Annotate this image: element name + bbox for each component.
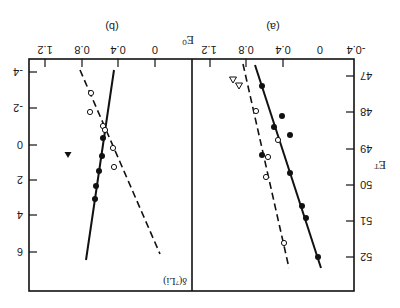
tick-label: 47: [360, 70, 372, 82]
tick-label: 2: [17, 174, 23, 186]
panel-a-label: (a): [266, 21, 279, 33]
panel-b-y-ticks: [29, 72, 37, 252]
panel-b: 0 0.4 0.8 1.2 -4 -2 0 2 4 6 δ(⁷Li) (b): [13, 21, 187, 287]
panel-b-filled-triangle-marker: [65, 152, 72, 158]
panel-a-x-ticks: [210, 59, 283, 67]
tick-label: 0.8: [238, 44, 253, 56]
tick-label: 51: [360, 215, 372, 227]
tick-label: 48: [360, 106, 372, 118]
panel-a-y-axis-title: Eᵀ: [374, 158, 386, 172]
tick-label: 0.8: [74, 44, 89, 56]
panel-b-x-ticks: [45, 59, 155, 67]
panel-b-x-tick-labels: 0 0.4 0.8 1.2: [37, 44, 158, 56]
panel-b-label: (b): [105, 21, 118, 33]
tick-label: 1.2: [37, 44, 52, 56]
panel-b-y-tick-labels: -4 -2 0 2 4 6: [13, 66, 23, 258]
tick-label: 0: [17, 139, 23, 151]
panel-a-filled-circles: [259, 83, 321, 260]
panel-b-y-axis-title: δ(⁷Li): [163, 275, 187, 287]
tick-label: -0.4: [347, 44, 366, 56]
tick-label: 1.2: [201, 44, 216, 56]
panel-b-dashed-fit-line: [80, 70, 160, 254]
tick-label: 0: [152, 44, 158, 56]
panel-a: -0.4 0 0.4 0.8 1.2 47 48 49 50 51 52 Eᵀ …: [201, 21, 386, 268]
panel-a-y-tick-labels: 47 48 49 50 51 52: [360, 70, 372, 263]
tick-label: -2: [13, 102, 23, 114]
tick-label: 52: [360, 251, 372, 263]
panel-a-x-tick-labels: -0.4 0 0.4 0.8 1.2: [201, 44, 365, 56]
panel-a-open-triangles: [230, 77, 243, 89]
panel-a-dashed-fit-line: [243, 64, 289, 268]
panel-a-y-ticks: [346, 76, 354, 257]
tick-label: 49: [360, 143, 372, 155]
tick-label: 6: [17, 246, 23, 258]
tick-label: 0.4: [275, 44, 290, 56]
tick-label: 0.4: [110, 44, 125, 56]
tick-label: 4: [17, 209, 23, 221]
rotated-two-panel-chart: -0.4 0 0.4 0.8 1.2 47 48 49 50 51 52 Eᵀ …: [0, 0, 400, 308]
tick-label: 50: [360, 179, 372, 191]
shared-x-axis-title: E⁰: [182, 33, 194, 47]
figure-rotated: -0.4 0 0.4 0.8 1.2 47 48 49 50 51 52 Eᵀ …: [13, 21, 386, 291]
tick-label: 0: [317, 44, 323, 56]
panel-b-solid-fit-line: [86, 70, 114, 260]
panel-a-solid-fit-line: [255, 65, 321, 268]
tick-label: -4: [13, 66, 23, 78]
